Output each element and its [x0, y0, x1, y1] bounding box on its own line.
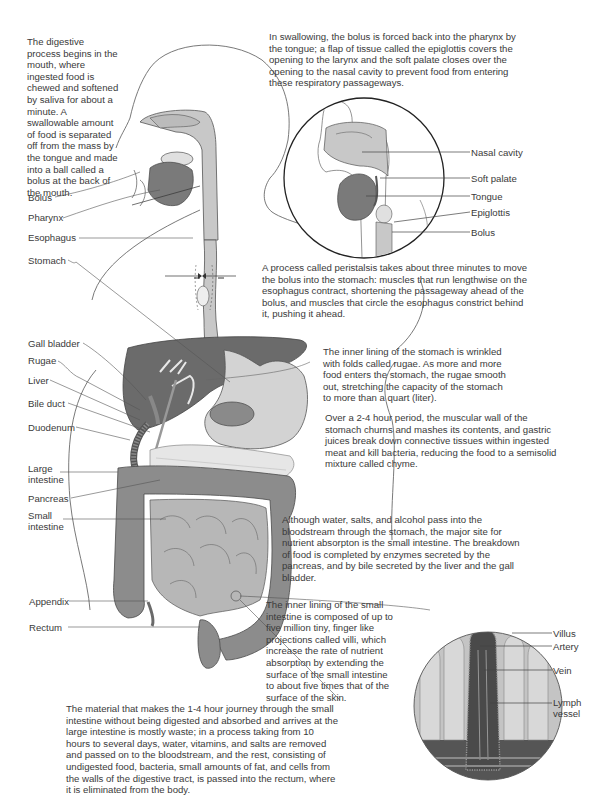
label-tongue: Tongue	[471, 191, 502, 202]
label-inset-bolus: Bolus	[471, 227, 495, 238]
label-large-intestine-2: intestine	[28, 474, 64, 485]
head-inset	[284, 98, 470, 258]
label-artery: Artery	[553, 641, 579, 652]
small-intestine	[150, 499, 268, 616]
label-lymph-2: vessel	[553, 708, 580, 719]
label-stomach: Stomach	[28, 255, 66, 266]
label-esophagus: Esophagus	[28, 232, 76, 243]
label-lymph-1: Lymph	[553, 697, 581, 708]
rugae-paragraph: The inner lining of the stomach is wrink…	[323, 346, 507, 404]
swallowing-paragraph: In swallowing, the bolus is forced back …	[269, 31, 517, 89]
mouth-paragraph: The digestive process begins in the mout…	[27, 36, 119, 198]
label-villus: Villus	[553, 628, 576, 639]
head-cross-section	[132, 110, 218, 240]
label-duodenum: Duodenum	[28, 422, 75, 433]
label-small-intestine-2: intestine	[28, 521, 64, 532]
villi-paragraph: The inner lining of the small intestine …	[266, 599, 394, 703]
absorption-paragraph: Although water, salts, and alcohol pass …	[282, 514, 530, 584]
large-intestine-paragraph: The material that makes the 1-4 hour jou…	[66, 703, 338, 796]
label-rectum: Rectum	[29, 622, 62, 633]
label-rugae: Rugae	[28, 355, 56, 366]
label-bile-duct: Bile duct	[28, 398, 65, 409]
label-epiglottis: Epiglottis	[471, 207, 510, 218]
label-large-intestine-1: Large	[28, 463, 53, 474]
label-small-intestine-1: Small	[28, 510, 52, 521]
label-bolus: Bolus	[28, 192, 52, 203]
label-liver: Liver	[28, 375, 49, 386]
label-gall-bladder: Gall bladder	[28, 338, 80, 349]
label-soft-palate: Soft palate	[471, 173, 517, 184]
label-nasal-cavity: Nasal cavity	[471, 147, 523, 158]
villus-inset	[410, 629, 570, 791]
label-pharynx: Pharynx	[28, 212, 63, 223]
label-pancreas: Pancreas	[28, 493, 69, 504]
appendix	[148, 602, 153, 626]
label-appendix: Appendix	[29, 596, 69, 607]
peristalsis-paragraph: A process called peristalsis takes about…	[262, 262, 532, 320]
chyme-paragraph: Over a 2-4 hour period, the muscular wal…	[325, 412, 559, 470]
label-vein: Vein	[553, 665, 572, 676]
